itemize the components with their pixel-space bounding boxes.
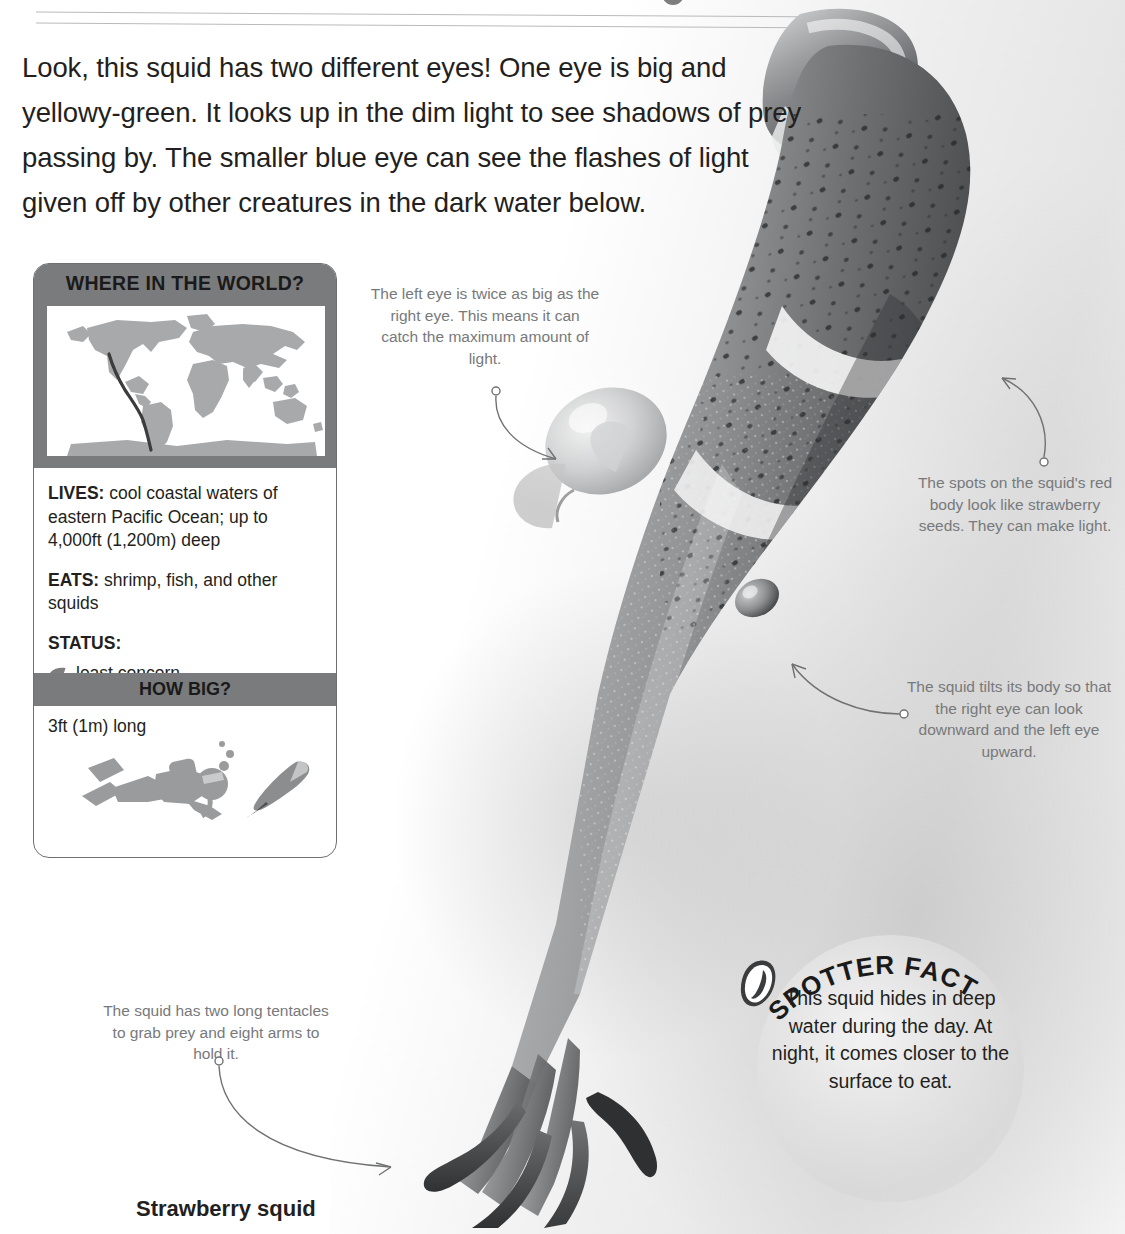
lives-label: LIVES: [48, 483, 104, 503]
scuba-diver-icon [82, 741, 234, 820]
lives-fact: LIVES: cool coastal waters of eastern Pa… [48, 482, 322, 553]
squid-silhouette-icon [246, 762, 309, 818]
callout-eye: The left eye is twice as big as the righ… [370, 283, 600, 369]
spotter-fact: SPOTTER FACT This squid hides in deep wa… [757, 935, 1024, 1202]
callout-spots: The spots on the squid's red body look l… [915, 472, 1115, 537]
where-in-the-world-header: WHERE IN THE WORLD? [34, 264, 336, 468]
how-big-body: 3ft (1m) long [34, 706, 336, 858]
eats-label: EATS: [48, 570, 99, 590]
status-label: STATUS: [48, 633, 121, 653]
world-map [47, 306, 325, 456]
callout-tentacles: The squid has two long tentacles to grab… [100, 1000, 332, 1065]
world-map-svg [47, 306, 325, 456]
how-big-title: HOW BIG? [34, 673, 336, 706]
squid-tentacle-right [586, 1092, 657, 1177]
where-in-the-world-title: WHERE IN THE WORLD? [34, 272, 336, 295]
eats-fact: EATS: shrimp, fish, and other squids [48, 569, 322, 616]
scale-comparison [52, 740, 317, 845]
spotter-fact-text: This squid hides in deep water during th… [767, 985, 1014, 1095]
fact-card-body: LIVES: cool coastal waters of eastern Pa… [34, 468, 336, 684]
page-caption: Strawberry squid [136, 1196, 316, 1222]
size-value: 3ft (1m) long [48, 716, 146, 737]
page-root: Look, this squid has two different eyes!… [0, 0, 1125, 1234]
fact-card: WHERE IN THE WORLD? [33, 263, 337, 858]
callout-tilt: The squid tilts its body so that the rig… [900, 676, 1118, 762]
intro-paragraph: Look, this squid has two different eyes!… [22, 45, 812, 225]
how-big-header: HOW BIG? [34, 673, 336, 706]
status-fact: STATUS: [48, 632, 322, 656]
